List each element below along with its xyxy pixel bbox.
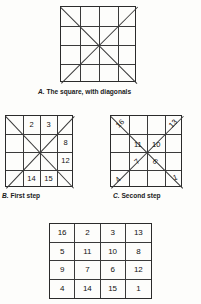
magic-cell: 3 (101, 224, 126, 243)
figure-a-grid (60, 6, 136, 82)
figure-c-caption-text: Second step (121, 192, 160, 199)
figure-b-cell-r0c2: 3 (40, 121, 57, 129)
magic-cell: 4 (50, 280, 75, 299)
magic-cell: 9 (50, 261, 75, 280)
grid-hline (111, 170, 181, 171)
figure-b-cell-r2c3: 12 (57, 157, 74, 165)
magic-cell: 7 (75, 261, 100, 280)
grid-hline (6, 134, 72, 135)
grid-hline (61, 64, 135, 65)
figure-b-cell-r0c1: 2 (23, 121, 40, 129)
figure-a-caption-text: The square, with diagonals (46, 88, 131, 95)
grid-vline (80, 7, 81, 81)
grid-vline (118, 7, 119, 81)
magic-cell: 10 (101, 243, 126, 262)
figure-b-cell-r1c3: 8 (57, 139, 74, 147)
magic-cell: 2 (75, 224, 100, 243)
grid-hline (61, 26, 135, 27)
figure-b-caption-label: B. (2, 192, 9, 199)
figure-c-caption-label: C. (113, 192, 120, 199)
figure-c-cell-r0c0: 16 (115, 118, 126, 129)
magic-cell: 13 (126, 224, 151, 243)
grid-vline (165, 116, 166, 186)
figure-c-cell-r1c1: 11 (134, 141, 142, 149)
figure-c-cell-r3c3: 1 (172, 174, 178, 182)
magic-cell: 5 (50, 243, 75, 262)
figure-c-cell-r1c2: 10 (152, 141, 160, 149)
grid-vline (57, 116, 58, 186)
figure-a-caption-label: A. (38, 88, 45, 95)
figure-c-cell-r0c3: 13 (168, 118, 179, 129)
magic-cell: 15 (101, 280, 126, 299)
figure-b-caption-text: First step (10, 192, 40, 199)
magic-cell: 6 (101, 261, 126, 280)
magic-cell: 14 (75, 280, 100, 299)
figure-a-caption: A. The square, with diagonals (38, 89, 131, 96)
grid-hline (111, 134, 181, 135)
figure-b-cell-r3c1: 14 (23, 175, 40, 183)
magic-cell: 8 (126, 243, 151, 262)
magic-cell: 1 (126, 280, 151, 299)
figure-c-caption: C. Second step (113, 193, 161, 200)
grid-vline (129, 116, 130, 186)
figure-b-grid: 2 3 8 12 14 15 (5, 115, 73, 187)
figure-c-grid: 16 13 11 10 7 6 4 1 (110, 115, 182, 187)
magic-cell: 16 (50, 224, 75, 243)
figure-b-caption: B. First step (2, 193, 40, 200)
figure-b-cell-r3c2: 15 (40, 175, 57, 183)
grid-hline (6, 170, 72, 171)
magic-cell: 11 (75, 243, 100, 262)
magic-cell: 12 (126, 261, 151, 280)
magic-square-grid: 16 2 3 13 5 11 10 8 9 7 6 12 4 14 15 1 (49, 223, 152, 299)
